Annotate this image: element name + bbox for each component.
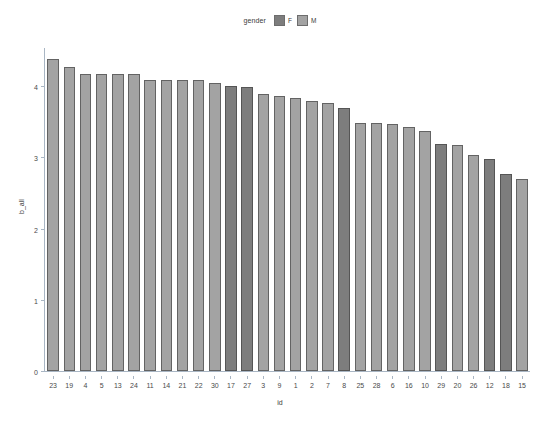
y-tick-label: 2 bbox=[34, 226, 38, 233]
bar-slot bbox=[433, 48, 449, 371]
chart-legend: gender F M bbox=[0, 13, 560, 27]
bar[interactable] bbox=[484, 159, 495, 371]
x-tick: 26 bbox=[465, 376, 481, 390]
x-tick-mark bbox=[392, 376, 393, 379]
y-tick-label: 1 bbox=[34, 297, 38, 304]
x-tick-label: 27 bbox=[243, 381, 251, 390]
bar-slot bbox=[385, 48, 401, 371]
plot-area: 01234 bbox=[44, 48, 530, 372]
bar-slot bbox=[514, 48, 530, 371]
bar[interactable] bbox=[64, 67, 75, 371]
bar[interactable] bbox=[419, 131, 430, 371]
bar[interactable] bbox=[258, 94, 269, 371]
x-tick-mark bbox=[328, 376, 329, 379]
bar[interactable] bbox=[306, 101, 317, 371]
x-tick-label: 15 bbox=[518, 381, 526, 390]
bar[interactable] bbox=[47, 59, 58, 371]
bar[interactable] bbox=[387, 124, 398, 371]
x-tick: 28 bbox=[368, 376, 384, 390]
bar[interactable] bbox=[468, 155, 479, 371]
x-tick: 2 bbox=[304, 376, 320, 390]
x-tick-mark bbox=[408, 376, 409, 379]
x-tick-label: 3 bbox=[261, 381, 265, 390]
bar[interactable] bbox=[161, 80, 172, 371]
legend-item-f[interactable]: F bbox=[274, 15, 292, 26]
x-tick-mark bbox=[53, 376, 54, 379]
x-tick: 3 bbox=[255, 376, 271, 390]
x-tick-mark bbox=[117, 376, 118, 379]
bar[interactable] bbox=[241, 87, 252, 371]
bar-slot bbox=[207, 48, 223, 371]
bar-slot bbox=[223, 48, 239, 371]
bar[interactable] bbox=[112, 74, 123, 371]
legend-item-m[interactable]: M bbox=[297, 15, 316, 26]
x-tick: 17 bbox=[223, 376, 239, 390]
bar[interactable] bbox=[516, 179, 527, 371]
y-tick-label: 3 bbox=[34, 155, 38, 162]
x-tick-mark bbox=[522, 376, 523, 379]
bar[interactable] bbox=[338, 108, 349, 371]
x-tick: 15 bbox=[514, 376, 530, 390]
x-tick: 24 bbox=[126, 376, 142, 390]
bar[interactable] bbox=[128, 74, 139, 371]
bar[interactable] bbox=[355, 123, 366, 371]
bar-slot bbox=[110, 48, 126, 371]
bar[interactable] bbox=[225, 86, 236, 371]
x-tick: 11 bbox=[142, 376, 158, 390]
bar[interactable] bbox=[435, 144, 446, 371]
bar-slot bbox=[336, 48, 352, 371]
legend-label-m: M bbox=[311, 17, 316, 24]
bar-slot bbox=[61, 48, 77, 371]
bar-slot bbox=[158, 48, 174, 371]
bar[interactable] bbox=[274, 96, 285, 371]
bar-slot bbox=[255, 48, 271, 371]
bar[interactable] bbox=[371, 123, 382, 371]
bar-slot bbox=[449, 48, 465, 371]
x-tick: 9 bbox=[271, 376, 287, 390]
x-tick-mark bbox=[473, 376, 474, 379]
bar-slot bbox=[94, 48, 110, 371]
bar-slot bbox=[465, 48, 481, 371]
bar[interactable] bbox=[177, 80, 188, 371]
bar[interactable] bbox=[290, 98, 301, 371]
x-tick-mark bbox=[69, 376, 70, 379]
x-tick-mark bbox=[505, 376, 506, 379]
x-axis-line bbox=[44, 371, 530, 372]
x-tick: 30 bbox=[207, 376, 223, 390]
x-tick-mark bbox=[182, 376, 183, 379]
x-tick: 16 bbox=[401, 376, 417, 390]
x-tick: 6 bbox=[385, 376, 401, 390]
x-tick-label: 11 bbox=[146, 381, 153, 390]
y-tick-label: 0 bbox=[34, 369, 38, 376]
bar[interactable] bbox=[144, 80, 155, 371]
x-tick-label: 26 bbox=[470, 381, 478, 390]
x-tick-label: 12 bbox=[486, 381, 494, 390]
legend-title: gender bbox=[244, 17, 266, 24]
bar-slot bbox=[498, 48, 514, 371]
bar[interactable] bbox=[80, 74, 91, 371]
bar[interactable] bbox=[209, 83, 220, 371]
bar[interactable] bbox=[322, 103, 333, 371]
legend-swatch-f bbox=[274, 15, 285, 26]
x-tick: 10 bbox=[417, 376, 433, 390]
x-tick-mark bbox=[101, 376, 102, 379]
bar[interactable] bbox=[500, 174, 511, 371]
x-tick-label: 18 bbox=[502, 381, 510, 390]
x-tick-label: 28 bbox=[373, 381, 381, 390]
x-tick-label: 6 bbox=[391, 381, 395, 390]
x-tick: 25 bbox=[352, 376, 368, 390]
bar-slot bbox=[288, 48, 304, 371]
y-axis-title: b_all bbox=[18, 199, 25, 214]
x-tick-mark bbox=[150, 376, 151, 379]
bar[interactable] bbox=[403, 127, 414, 371]
bar[interactable] bbox=[452, 145, 463, 371]
bar[interactable] bbox=[96, 74, 107, 371]
x-tick-label: 8 bbox=[342, 381, 346, 390]
x-tick-label: 10 bbox=[421, 381, 429, 390]
y-tick-mark bbox=[41, 371, 45, 372]
bar[interactable] bbox=[193, 80, 204, 371]
x-tick-mark bbox=[166, 376, 167, 379]
bar-slot bbox=[320, 48, 336, 371]
bar-slot bbox=[77, 48, 93, 371]
bar-slot bbox=[401, 48, 417, 371]
